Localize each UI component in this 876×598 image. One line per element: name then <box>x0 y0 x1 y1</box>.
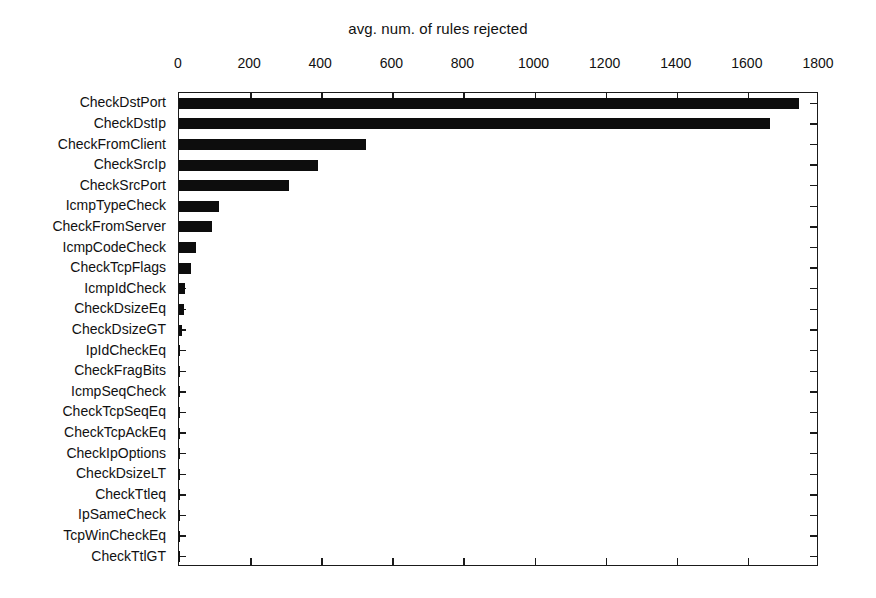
y-axis-tick-right <box>810 123 817 124</box>
y-tick-label-checktcpseqeq: CheckTcpSeqEq <box>62 403 166 419</box>
bar-checktcpseqeq <box>179 407 180 418</box>
y-axis-tick-right <box>810 103 817 104</box>
y-axis-tick-right <box>810 494 817 495</box>
y-axis-tick-right <box>810 288 817 289</box>
y-axis-tick-right <box>810 515 817 516</box>
x-tick-label: 1800 <box>802 55 833 71</box>
bar-icmpseqcheck <box>179 386 180 397</box>
y-axis-tick-right <box>810 535 817 536</box>
x-tick-label: 0 <box>174 55 182 71</box>
y-tick-label-checktcpackeq: CheckTcpAckEq <box>64 424 166 440</box>
y-axis-tick-right <box>810 144 817 145</box>
y-axis-tick-left <box>179 556 186 557</box>
x-axis-tick-bottom <box>250 558 251 565</box>
y-tick-label-checkttlgt: CheckTtlGT <box>91 548 166 564</box>
bar-icmpcodecheck <box>179 242 196 253</box>
y-tick-label-checkdsizeeq: CheckDsizeEq <box>74 300 166 316</box>
y-tick-label-icmpcodecheck: IcmpCodeCheck <box>63 239 167 255</box>
x-tick-label: 400 <box>309 55 332 71</box>
bar-checkfragbits <box>179 366 180 377</box>
y-tick-label-icmpidcheck: IcmpIdCheck <box>84 280 166 296</box>
y-tick-label-checksrcport: CheckSrcPort <box>80 177 166 193</box>
bar-icmptypecheck <box>179 201 219 212</box>
y-axis-tick-right <box>810 226 817 227</box>
y-axis-tick-right <box>810 453 817 454</box>
y-tick-label-tcpwincheckeq: TcpWinCheckEq <box>63 527 166 543</box>
y-axis-tick-right <box>810 350 817 351</box>
x-axis-tick-bottom <box>392 558 393 565</box>
x-tick-label: 1600 <box>731 55 762 71</box>
y-axis-tick-left <box>179 391 186 392</box>
y-axis-tick-right <box>810 556 817 557</box>
y-axis-tick-right <box>810 267 817 268</box>
y-tick-label-checkipoptions: CheckIpOptions <box>66 445 166 461</box>
y-axis-tick-right <box>810 371 817 372</box>
y-axis-tick-right <box>810 164 817 165</box>
x-tick-label: 1000 <box>518 55 549 71</box>
y-axis-tick-left <box>179 453 186 454</box>
y-tick-label-checkfromclient: CheckFromClient <box>58 136 166 152</box>
y-axis-tick-right <box>810 309 817 310</box>
y-tick-label-ipsamecheck: IpSameCheck <box>78 506 166 522</box>
y-tick-label-checkfragbits: CheckFragBits <box>74 362 166 378</box>
y-axis-tick-right <box>810 206 817 207</box>
x-tick-label: 600 <box>380 55 403 71</box>
y-axis-tick-right <box>810 412 817 413</box>
y-axis-tick-right <box>810 432 817 433</box>
y-axis-tick-right <box>810 247 817 248</box>
bar-checksrcip <box>179 160 318 171</box>
y-tick-label-icmptypecheck: IcmpTypeCheck <box>66 197 166 213</box>
bar-checkdsizeeq <box>179 304 184 315</box>
y-axis-category-labels: CheckDstPortCheckDstIpCheckFromClientChe… <box>0 92 172 566</box>
x-axis-tick-bottom <box>463 558 464 565</box>
x-tick-label: 200 <box>237 55 260 71</box>
bar-checkfromclient <box>179 139 366 150</box>
y-axis-tick-left <box>179 515 186 516</box>
x-axis-tick-bottom <box>535 558 536 565</box>
bar-checktcpackeq <box>179 428 180 439</box>
y-tick-label-checkdstport: CheckDstPort <box>80 94 166 110</box>
x-axis-tick-bottom <box>748 558 749 565</box>
bar-checkdstip <box>179 118 770 129</box>
x-axis-tick-bottom <box>677 558 678 565</box>
x-axis-tick-bottom <box>606 558 607 565</box>
y-axis-tick-right <box>810 474 817 475</box>
y-tick-label-checkdstip: CheckDstIp <box>94 115 166 131</box>
y-tick-label-checkfromserver: CheckFromServer <box>52 218 166 234</box>
x-axis-tick-bottom <box>321 558 322 565</box>
chart-title: avg. num. of rules rejected <box>0 20 876 37</box>
x-tick-label: 1200 <box>589 55 620 71</box>
y-axis-tick-left <box>179 535 186 536</box>
y-axis-tick-left <box>179 494 186 495</box>
x-axis-tick-labels: 020040060080010001200140016001800 <box>0 55 876 75</box>
y-axis-tick-right <box>810 185 817 186</box>
bar-checksrcport <box>179 180 289 191</box>
bar-checkdstport <box>179 98 799 109</box>
bar-checkdsizegt <box>179 325 182 336</box>
y-axis-tick-left <box>179 474 186 475</box>
y-tick-label-ipidcheckeq: IpIdCheckEq <box>86 342 166 358</box>
x-tick-label: 800 <box>451 55 474 71</box>
y-axis-tick-left <box>179 412 186 413</box>
y-tick-label-checktcpflags: CheckTcpFlags <box>70 259 166 275</box>
bar-checktcpflags <box>179 263 191 274</box>
y-tick-label-checkttleq: CheckTtleq <box>95 486 166 502</box>
x-tick-label: 1400 <box>660 55 691 71</box>
bar-icmpidcheck <box>179 283 185 294</box>
y-tick-label-icmpseqcheck: IcmpSeqCheck <box>71 383 166 399</box>
chart-figure: avg. num. of rules rejected 020040060080… <box>0 0 876 598</box>
y-axis-tick-right <box>810 391 817 392</box>
y-tick-label-checkdsizegt: CheckDsizeGT <box>72 321 166 337</box>
bar-checkfromserver <box>179 221 212 232</box>
y-axis-tick-left <box>179 432 186 433</box>
y-tick-label-checkdsizelt: CheckDsizeLT <box>76 465 166 481</box>
plot-area <box>178 92 818 566</box>
y-tick-label-checksrcip: CheckSrcIp <box>94 156 166 172</box>
y-axis-tick-right <box>810 329 817 330</box>
bar-ipidcheckeq <box>179 345 180 356</box>
